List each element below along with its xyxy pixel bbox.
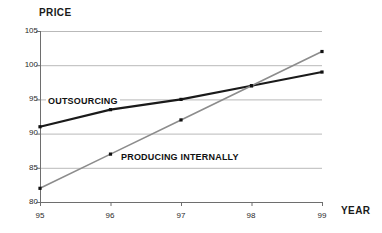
series-label-producing-internally: PRODUCING INTERNALLY — [119, 152, 241, 162]
data-point-producing-internally-99 — [320, 50, 323, 53]
plot-area — [0, 0, 382, 233]
series-label-outsourcing: OUTSOURCING — [46, 96, 120, 106]
data-series-layer — [38, 50, 323, 190]
data-point-outsourcing-99 — [320, 70, 323, 73]
data-point-producing-internally-97 — [179, 118, 182, 121]
data-point-producing-internally-98 — [250, 84, 253, 87]
data-point-outsourcing-95 — [38, 125, 41, 128]
data-point-outsourcing-96 — [109, 108, 112, 111]
data-point-outsourcing-97 — [179, 98, 182, 101]
data-point-producing-internally-96 — [109, 153, 112, 156]
price-chart: PRICE YEAR 105 100 95 90 85 80 95 96 97 … — [0, 0, 382, 233]
data-point-producing-internally-95 — [38, 187, 41, 190]
